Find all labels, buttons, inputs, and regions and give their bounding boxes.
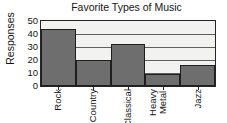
x-tick-label: Classical — [123, 89, 133, 123]
x-tick-cell: Heavy Metal — [145, 89, 180, 123]
x-tick-label: Heavy Metal — [148, 89, 168, 116]
chart-figure: Favorite Types of Music Responses 010203… — [0, 0, 227, 123]
x-tick-cell: Jazz — [180, 89, 215, 123]
x-tick-label: Country — [88, 89, 98, 122]
x-axis-tick-labels: RockCountryClassicalHeavy MetalJazz — [0, 0, 227, 123]
x-tick-label: Rock — [53, 89, 63, 111]
x-tick-cell: Classical — [111, 89, 146, 123]
x-tick-cell: Rock — [41, 89, 76, 123]
x-tick-cell: Country — [76, 89, 111, 123]
x-tick-label: Jazz — [193, 89, 203, 109]
